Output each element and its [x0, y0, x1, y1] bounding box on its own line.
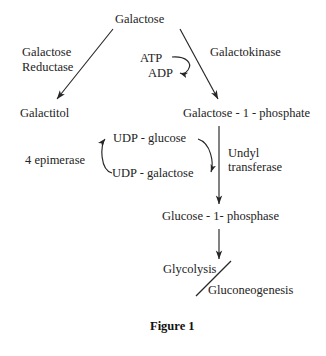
- figure-pathway-diagram: Galactose Galactitol Galactose - 1 - pho…: [0, 0, 326, 356]
- enzyme-galactokinase: Galactokinase: [210, 46, 281, 59]
- node-galactose: Galactose: [115, 13, 164, 26]
- node-glucose-1-phosphase: Glucose - 1- phosphase: [162, 210, 279, 223]
- node-udp-glucose: UDP - glucose: [113, 132, 186, 145]
- node-udp-galactose: UDP - galactose: [112, 167, 193, 180]
- enzyme-4-epimerase: 4 epimerase: [25, 154, 85, 167]
- figure-caption: Figure 1: [150, 319, 195, 334]
- cofactor-adp: ADP: [148, 67, 173, 80]
- arrow-udpglucose-to-udpgalactose: [198, 139, 212, 172]
- node-galactitol: Galactitol: [20, 107, 69, 120]
- enzyme-undyl-transferase-line2: transferase: [228, 161, 282, 174]
- node-gluconeogenesis: Gluconeogenesis: [208, 284, 293, 297]
- node-glycolysis: Glycolysis: [163, 263, 216, 276]
- arrow-galactose-to-gal1p: [180, 29, 218, 99]
- enzyme-undyl-transferase-line1: Undyl: [228, 147, 259, 160]
- cofactor-atp: ATP: [140, 52, 162, 65]
- enzyme-galactose-reductase-line1: Galactose: [22, 46, 71, 59]
- node-galactose-1-phosphate: Galactose - 1 - phosphate: [183, 107, 310, 120]
- arrow-atp-to-adp: [172, 57, 190, 74]
- arrow-udpgalactose-to-udpglucose: [102, 139, 112, 173]
- enzyme-galactose-reductase-line2: Reductase: [22, 61, 73, 74]
